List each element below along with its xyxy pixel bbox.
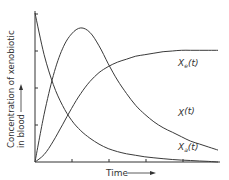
curve-xa: [35, 13, 218, 162]
chart: Xe(t) X(t) Xa(t) Time Concentration of x…: [0, 0, 229, 180]
label-xe: Xe(t): [177, 58, 198, 69]
y-arrow-head-icon: [19, 84, 23, 90]
y-axis-label-line2: in blood: [16, 114, 26, 148]
y-axis-label-line1: Concentration of xenobiotic: [6, 30, 16, 148]
label-xa: Xa(t): [177, 142, 198, 153]
x-arrow-head-icon: [150, 171, 156, 175]
x-axis-label: Time: [105, 168, 128, 178]
label-x: X(t): [177, 106, 195, 118]
